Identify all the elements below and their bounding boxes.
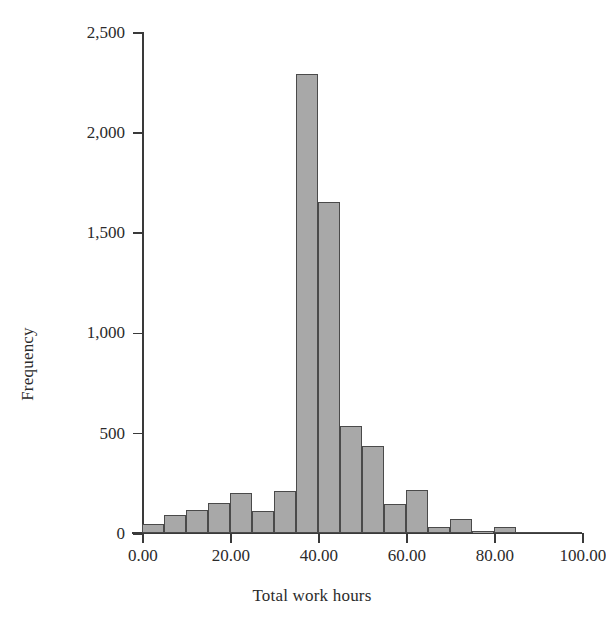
histogram-bar	[252, 511, 274, 533]
y-tick: 500	[133, 433, 142, 435]
histogram-bar	[230, 493, 252, 533]
y-tick-label: 1,500	[87, 223, 125, 243]
y-tick: 2,000	[133, 132, 142, 134]
histogram-bar	[274, 491, 296, 533]
y-tick: 2,500	[133, 32, 142, 34]
histogram-bar	[450, 519, 472, 533]
x-tick-label: 20.00	[212, 546, 250, 566]
histogram-bar	[296, 74, 318, 533]
histogram-bar	[560, 532, 582, 534]
y-tick: 0	[133, 533, 142, 535]
y-axis-title: Frequency	[0, 0, 56, 634]
plot-area: 05001,0001,5002,0002,500 0.0020.0040.006…	[142, 32, 582, 533]
y-tick-label: 1,000	[87, 323, 125, 343]
y-tick-label: 0	[117, 524, 126, 544]
histogram-bar	[318, 202, 340, 533]
y-axis-title-text: Frequency	[18, 327, 38, 401]
histogram-bar	[362, 446, 384, 533]
histogram-figure: Frequency 05001,0001,5002,0002,500 0.002…	[0, 0, 606, 634]
x-tick-label: 40.00	[300, 546, 338, 566]
x-axis-title-text: Total work hours	[252, 586, 371, 605]
histogram-bar	[186, 510, 208, 533]
x-tick-label: 80.00	[476, 546, 514, 566]
y-tick-label: 2,500	[87, 23, 125, 43]
x-tick: 20.00	[230, 533, 232, 543]
histogram-bar	[208, 503, 230, 533]
histogram-bar	[142, 524, 164, 533]
y-tick: 1,000	[133, 333, 142, 335]
histogram-bars	[142, 32, 582, 533]
x-axis-title: Total work hours	[142, 586, 482, 606]
y-tick-label: 2,000	[87, 123, 125, 143]
x-tick-label: 60.00	[388, 546, 426, 566]
histogram-bar	[406, 490, 428, 533]
histogram-bar	[340, 426, 362, 533]
x-tick: 60.00	[406, 533, 408, 543]
x-tick-label: 0.00	[128, 546, 158, 566]
x-tick: 40.00	[318, 533, 320, 543]
x-tick-label: 100.00	[559, 546, 606, 566]
histogram-bar	[384, 504, 406, 533]
x-tick: 100.00	[582, 533, 584, 543]
histogram-bar	[516, 532, 538, 534]
histogram-bar	[164, 515, 186, 533]
x-tick: 80.00	[494, 533, 496, 543]
histogram-bar	[472, 531, 494, 533]
histogram-bar	[538, 532, 560, 534]
histogram-bar	[428, 527, 450, 533]
histogram-bar	[494, 527, 516, 533]
y-tick-label: 500	[100, 424, 126, 444]
y-tick: 1,500	[133, 232, 142, 234]
x-tick: 0.00	[142, 533, 144, 543]
